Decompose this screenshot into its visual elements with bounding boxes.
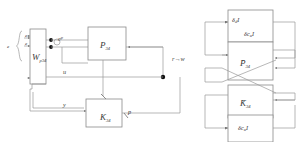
wire-bottom-wrap [273,105,295,128]
signal-label-u: u [63,68,66,75]
wire-wp-bottom-out [30,84,46,89]
brace-entry-label-a: e [25,33,28,38]
wire-kbar-right-loop [273,93,295,100]
signal-label-p: p [127,108,131,115]
brace-entry-label-b: e [25,41,28,46]
signal-label-ep: ep [58,35,64,42]
wire-into-delta-cu-bottom [205,95,228,128]
wire-y-into-k34-b [33,92,84,108]
left-brace [17,31,23,61]
block-delta-cu-bottom[interactable] [228,115,273,142]
block-diagram-svg: e e e Wp34 ep P34 [0,0,305,142]
wire-k34-top-tick [101,94,106,99]
wire-pbar-right-loop [273,50,295,68]
brace-label-1: e [7,44,10,49]
wire-left-rail-top [205,22,228,55]
wire-loop-under-p34 [62,47,88,63]
diagram-canvas: e e e Wp34 ep P34 [0,0,305,142]
block-p34[interactable] [88,27,126,60]
wire-top-wrap-to-pbar [273,22,295,58]
signal-label-y: y [62,101,66,108]
block-pbar34[interactable] [228,42,273,80]
block-kbar34[interactable] [228,85,273,118]
signal-label-rw: r→w [172,55,186,62]
